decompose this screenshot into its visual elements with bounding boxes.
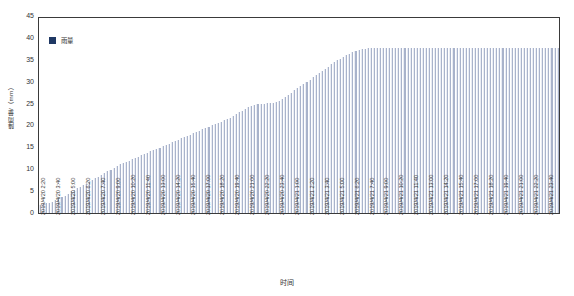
y-tick-label: 20 (14, 121, 34, 128)
x-tick-label: 2019/4/20 2:20 (42, 178, 48, 215)
y-tick-label: 10 (14, 165, 34, 172)
x-tick-label: 2019/4/20 5:00 (72, 178, 78, 215)
legend-label-rainfall: 雨量 (61, 36, 73, 45)
rainfall-chart: 降雨量/（mm） 051015202530354045 雨量 2019/4/20… (0, 0, 574, 296)
y-tick-label: 25 (14, 100, 34, 107)
x-tick-label: 2019/4/20 23:40 (280, 175, 286, 215)
x-tick-label: 2019/4/21 23:40 (549, 175, 555, 215)
y-tick-label: 15 (14, 143, 34, 150)
x-axis-ticks: 2019/4/20 2:202019/4/20 3:402019/4/20 5:… (38, 215, 560, 275)
x-tick-label: 2019/4/21 11:40 (415, 175, 421, 215)
x-tick-label: 2019/4/20 11:40 (146, 175, 152, 215)
x-tick-label: 2019/4/21 10:20 (400, 175, 406, 215)
x-tick-label: 2019/4/21 18:20 (489, 175, 495, 215)
x-tick-label: 2019/4/21 6:20 (355, 178, 361, 215)
x-tick-label: 2019/4/21 17:00 (474, 175, 480, 215)
x-tick-label: 2019/4/20 14:20 (176, 175, 182, 215)
y-tick-label: 5 (14, 187, 34, 194)
x-tick-label: 2019/4/21 19:40 (504, 175, 510, 215)
x-tick-label: 2019/4/21 14:20 (445, 175, 451, 215)
y-tick-label: 35 (14, 56, 34, 63)
x-axis-title: 时间 (0, 277, 574, 287)
x-tick-label: 2019/4/20 3:40 (57, 178, 63, 215)
y-tick-label: 45 (14, 12, 34, 19)
x-tick-label: 2019/4/20 6:20 (87, 178, 93, 215)
y-tick-label: 30 (14, 78, 34, 85)
x-tick-label: 2019/4/21 21:00 (519, 175, 525, 215)
x-tick-label: 2019/4/20 22:20 (266, 175, 272, 215)
x-tick-label: 2019/4/21 15:40 (459, 175, 465, 215)
bar (557, 48, 560, 213)
legend-swatch-rainfall (49, 37, 56, 44)
x-tick-label: 2019/4/21 2:20 (310, 178, 316, 215)
x-tick-label: 2019/4/20 21:00 (251, 175, 257, 215)
x-tick-label: 2019/4/20 19:40 (236, 175, 242, 215)
x-tick-label: 2019/4/20 17:00 (206, 175, 212, 215)
x-tick-label: 2019/4/21 1:00 (295, 178, 301, 215)
x-tick-label: 2019/4/21 5:00 (340, 178, 346, 215)
x-tick-label: 2019/4/21 3:40 (325, 178, 331, 215)
x-tick-label: 2019/4/20 9:00 (116, 178, 122, 215)
x-tick-label: 2019/4/20 13:00 (161, 175, 167, 215)
y-tick-label: 0 (14, 209, 34, 216)
y-tick-label: 40 (14, 34, 34, 41)
x-tick-label: 2019/4/20 10:20 (131, 175, 137, 215)
x-tick-label: 2019/4/21 9:00 (385, 178, 391, 215)
x-tick-label: 2019/4/20 18:20 (221, 175, 227, 215)
x-tick-label: 2019/4/21 7:40 (370, 178, 376, 215)
x-tick-label: 2019/4/20 7:40 (102, 178, 108, 215)
x-tick-label: 2019/4/21 13:00 (430, 175, 436, 215)
legend: 雨量 (49, 36, 73, 45)
x-tick-label: 2019/4/21 22:20 (534, 175, 540, 215)
x-tick-label: 2019/4/20 15:40 (191, 175, 197, 215)
